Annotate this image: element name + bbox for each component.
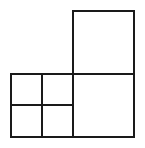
top-square [73,11,134,74]
bottom-right-square [73,74,134,137]
squares-diagram [0,0,145,148]
